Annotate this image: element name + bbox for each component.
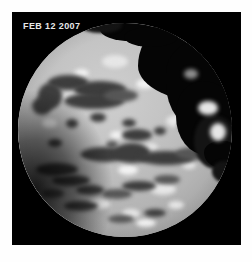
dark-streak: [76, 185, 104, 195]
land-alaska-aleutians: [124, 27, 178, 47]
bright-eddy: [168, 201, 184, 209]
date-label: FEB 12 2007: [23, 21, 80, 31]
dark-anomaly: [32, 97, 52, 115]
bright-inland-patch: [184, 69, 198, 79]
dark-spot: [154, 127, 166, 135]
dark-anomaly: [104, 89, 138, 102]
dark-spot: [90, 113, 106, 122]
dark-spot: [48, 139, 62, 147]
dark-streak: [144, 209, 166, 217]
dark-spot: [66, 119, 78, 128]
dark-streak: [108, 215, 134, 223]
bright-eddy: [136, 219, 156, 227]
dark-streak: [154, 175, 180, 184]
dark-streak: [42, 189, 64, 198]
globe-visualization: [18, 23, 232, 237]
bright-eddy: [42, 119, 57, 128]
dark-streak: [122, 181, 156, 191]
bright-eddy: [102, 55, 128, 68]
dark-streak: [102, 189, 132, 199]
dark-streak: [64, 201, 98, 211]
equatorial-band-segment: [122, 129, 152, 141]
bright-eddy: [118, 165, 138, 175]
image-panel: FEB 12 2007: [12, 12, 241, 245]
bright-inland-patch: [198, 101, 218, 115]
bright-inland-patch: [210, 123, 226, 141]
globe-disc: [18, 23, 232, 237]
figure-root: FEB 12 2007: [0, 0, 252, 262]
dark-spot: [122, 119, 136, 127]
